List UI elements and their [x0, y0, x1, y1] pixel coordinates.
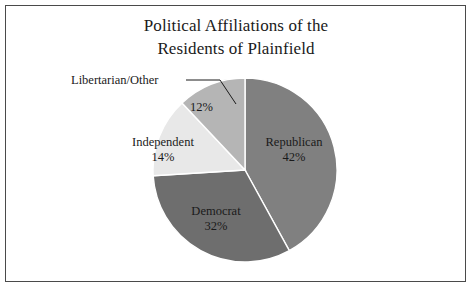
slice-label-libertarian-other-pct: 12% — [190, 100, 230, 115]
slice-label-independent: Independent 14% — [117, 135, 209, 165]
slice-label-independent-name: Independent — [117, 135, 209, 150]
slice-label-democrat-pct: 32% — [168, 219, 264, 234]
chart-title-line-2: Residents of Plainfield — [0, 37, 472, 60]
pie-svg — [153, 78, 337, 262]
chart-title-line-1: Political Affiliations of the — [0, 14, 472, 37]
slice-label-independent-pct: 14% — [117, 150, 209, 165]
pie-chart-figure: Political Affiliations of the Residents … — [0, 0, 472, 288]
slice-label-republican: Republican 42% — [252, 135, 336, 165]
slice-label-libertarian-other-name: Libertarian/Other — [71, 73, 158, 87]
slice-label-republican-name: Republican — [252, 135, 336, 150]
slice-label-democrat: Democrat 32% — [168, 204, 264, 234]
pie-plot-area — [153, 78, 337, 262]
chart-title: Political Affiliations of the Residents … — [0, 14, 472, 60]
slice-label-republican-pct: 42% — [252, 150, 336, 165]
slice-label-libertarian-other: Libertarian/Other — [71, 72, 195, 88]
slice-label-democrat-name: Democrat — [168, 204, 264, 219]
slice-label-libertarian-other-pct-wrap: 12% — [190, 100, 230, 115]
